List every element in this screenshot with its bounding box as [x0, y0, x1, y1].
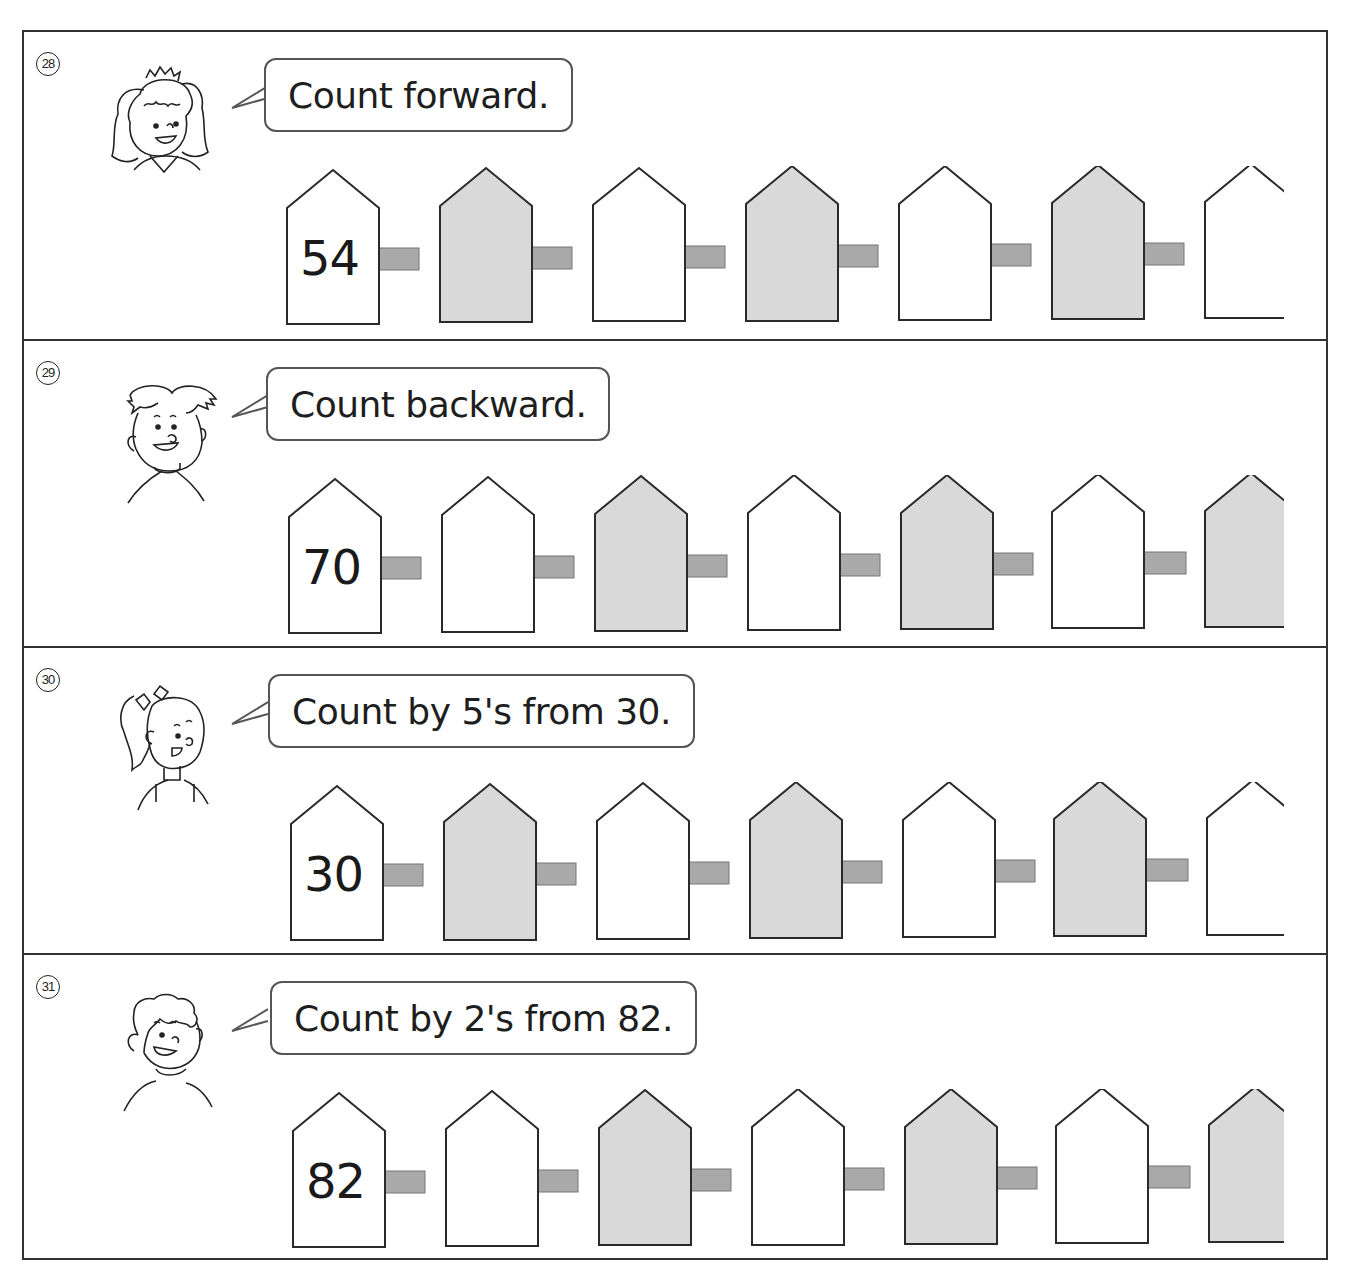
fence-post-7	[1205, 166, 1284, 318]
fence-post-start-value: 70	[302, 539, 361, 595]
speech-bubble-tail	[228, 1001, 268, 1037]
fence-post-start-value: 54	[300, 230, 359, 286]
fence-post-5	[901, 475, 993, 629]
fence-post-4	[748, 475, 840, 630]
fence-post-3	[597, 783, 689, 939]
problem-number: 28	[36, 52, 60, 76]
fence-post-6	[1054, 782, 1146, 936]
fence-post-4	[752, 1089, 844, 1245]
fence-post-start-value: 82	[306, 1153, 365, 1209]
problem-31-panel: 31 Count by 2's from 82.	[24, 953, 1326, 1258]
fence-post-3	[593, 168, 685, 321]
speech-bubble-tail	[228, 694, 268, 730]
worksheet: 28 Count forward.	[22, 30, 1328, 1260]
number-fence	[264, 1089, 1284, 1249]
fence-post-7	[1207, 782, 1284, 935]
fence-post-2	[442, 477, 534, 632]
problem-28-panel: 28 Count forward.	[24, 32, 1326, 339]
number-fence	[264, 166, 1284, 326]
instruction-bubble: Count by 2's from 82.	[270, 981, 697, 1055]
fence-post-7	[1205, 475, 1284, 627]
instruction-bubble: Count by 5's from 30.	[268, 674, 695, 748]
fence-post-7	[1209, 1089, 1284, 1242]
speech-bubble-tail	[228, 387, 268, 423]
fence-post-2	[440, 168, 532, 322]
problem-29-panel: 29 Count backward.	[24, 339, 1326, 646]
fence-post-5	[905, 1089, 997, 1244]
speech-bubble-tail	[228, 78, 268, 114]
problem-number: 29	[36, 361, 60, 385]
problem-number: 31	[36, 975, 60, 999]
boy-curly-hair-icon	[94, 983, 234, 1123]
instruction-bubble: Count forward.	[264, 58, 573, 132]
fence-post-3	[599, 1090, 691, 1245]
fence-post-5	[903, 782, 995, 937]
fence-post-6	[1056, 1089, 1148, 1243]
fence-post-6	[1052, 166, 1144, 319]
fence-post-2	[444, 784, 536, 940]
fence-post-start-value: 30	[304, 846, 363, 902]
fence-post-6	[1052, 475, 1144, 628]
girl-with-pigtails-icon	[94, 60, 234, 200]
boy-spiky-hair-icon	[94, 369, 234, 509]
problem-30-panel: 30 Count by 5's from 30.	[24, 646, 1326, 953]
fence-post-2	[446, 1091, 538, 1246]
problem-number: 30	[36, 668, 60, 692]
fence-post-4	[750, 782, 842, 938]
fence-post-5	[899, 166, 991, 320]
girl-with-ponytail-icon	[94, 676, 234, 816]
number-fence	[264, 475, 1284, 635]
number-fence	[264, 782, 1284, 942]
fence-post-4	[746, 166, 838, 321]
fence-post-3	[595, 476, 687, 631]
instruction-bubble: Count backward.	[266, 367, 610, 441]
